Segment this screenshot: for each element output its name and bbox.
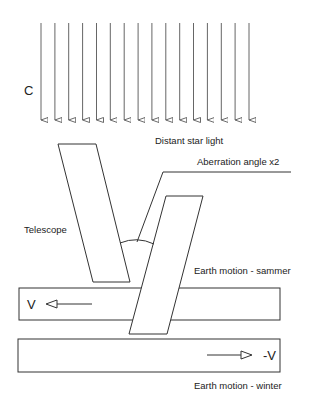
earth-motion-winter-label: Earth motion - winter (194, 381, 282, 391)
star-light-rays (41, 23, 249, 120)
aberration-angle-label: Aberration angle x2 (197, 157, 279, 167)
velocity-minus-v-label: -V (263, 349, 276, 362)
telescope-label: Telescope (24, 225, 67, 235)
distant-star-light-label: Distant star light (155, 136, 223, 146)
velocity-v-label: V (27, 298, 36, 311)
speed-of-light-label: C (24, 84, 33, 97)
earth-motion-summer-label: Earth motion - sammer (194, 266, 291, 276)
telescope-tube (58, 144, 130, 282)
